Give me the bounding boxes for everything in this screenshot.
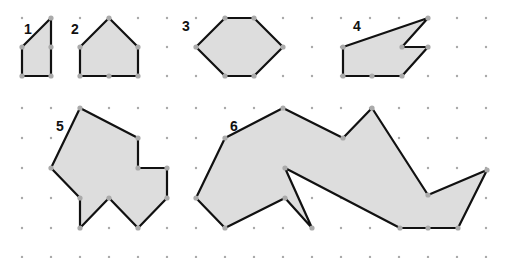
shape-label-5: 5 <box>56 118 64 134</box>
vertex-dot <box>425 15 430 20</box>
vertex-dot <box>135 225 140 230</box>
vertex-dot <box>369 73 374 78</box>
vertex-dot <box>106 73 111 78</box>
vertex-dot <box>280 44 285 49</box>
vertex-dot <box>282 165 287 170</box>
grid-diagram <box>0 0 505 258</box>
vertex-dot <box>251 15 256 20</box>
shape-label-6: 6 <box>230 118 238 134</box>
shape-label-1: 1 <box>24 21 32 37</box>
vertex-dot <box>251 73 256 78</box>
vertex-dot <box>135 44 140 49</box>
vertex-dot <box>309 225 314 230</box>
vertex-dot <box>193 44 198 49</box>
vertex-dot <box>340 73 345 78</box>
vertex-dot <box>369 105 374 110</box>
shape-label-3: 3 <box>182 18 190 34</box>
vertex-dot <box>135 73 140 78</box>
vertex-dot <box>282 195 287 200</box>
vertex-dot <box>280 105 285 110</box>
vertex-dot <box>19 73 24 78</box>
vertex-dot <box>48 165 53 170</box>
vertex-dot <box>106 15 111 20</box>
vertex-dot <box>164 165 169 170</box>
shape-label-2: 2 <box>71 21 79 37</box>
vertex-dot <box>222 73 227 78</box>
vertex-dot <box>222 15 227 20</box>
vertex-dot <box>48 44 53 49</box>
vertex-dot <box>48 73 53 78</box>
vertex-dot <box>77 44 82 49</box>
vertex-dot <box>399 44 404 49</box>
vertex-dot <box>135 135 140 140</box>
polygon-shape-6 <box>196 108 487 228</box>
vertex-dot <box>77 105 82 110</box>
vertex-dot <box>106 195 111 200</box>
vertex-dot <box>77 195 82 200</box>
vertex-dot <box>399 73 404 78</box>
vertex-dot <box>425 225 430 230</box>
vertex-dot <box>77 225 82 230</box>
polygon-shape-3 <box>196 18 283 76</box>
polygon-shape-2 <box>80 18 138 76</box>
vertex-dot <box>19 44 24 49</box>
vertex-dot <box>484 167 489 172</box>
shape-label-4: 4 <box>353 18 361 34</box>
vertex-dot <box>222 225 227 230</box>
vertex-dot <box>222 135 227 140</box>
vertex-dot <box>48 15 53 20</box>
vertex-dot <box>340 44 345 49</box>
vertex-dot <box>77 73 82 78</box>
vertex-dot <box>425 192 430 197</box>
vertex-dot <box>135 165 140 170</box>
vertex-dot <box>397 225 402 230</box>
vertex-dot <box>164 195 169 200</box>
polygon-shape-5 <box>51 108 167 228</box>
vertex-dot <box>455 225 460 230</box>
vertex-dot <box>425 44 430 49</box>
vertex-dot <box>340 135 345 140</box>
vertex-dot <box>193 195 198 200</box>
